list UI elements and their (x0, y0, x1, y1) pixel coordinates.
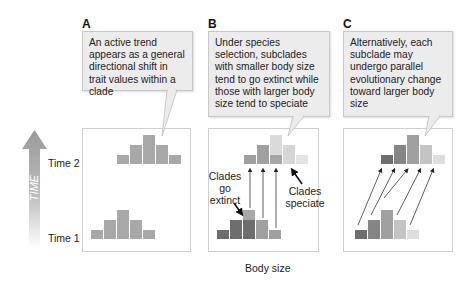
panel-c-arrows (0, 0, 470, 283)
x-axis-label: Body size (245, 262, 291, 274)
